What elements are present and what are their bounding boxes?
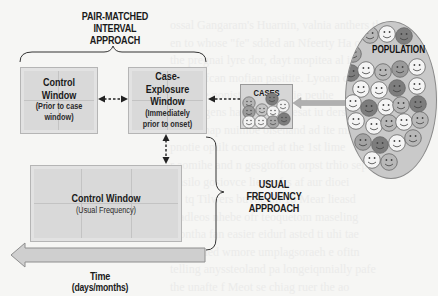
population-label: POPULATION (372, 44, 425, 55)
double-arrow-horizontal (97, 94, 129, 104)
control-window-usual-frequency: Control Window (Usual Frequency) (30, 165, 182, 242)
pair-matched-heading: PAIR-MATCHED INTERVAL APPROACH (68, 10, 163, 46)
case-window-sub1: (Immediately (134, 108, 200, 119)
control-window-prior-sub2: window) (26, 112, 91, 123)
usual-frequency-title-line1: USUAL FREQUENCY (234, 178, 313, 202)
usual-frequency-heading: USUAL FREQUENCY APPROACH (234, 178, 313, 214)
case-window-title3: Window (134, 95, 200, 108)
cases-faces (241, 85, 292, 128)
double-arrow-vertical (161, 133, 171, 165)
pair-matched-title-line2: INTERVAL APPROACH (68, 22, 163, 46)
control-window-prior: Control Window (Prior to case window) (20, 67, 98, 134)
dashed-arrow-cases-to-window (207, 94, 241, 104)
case-window-title2: Explosure (134, 83, 200, 96)
case-window-title1: Case- (134, 70, 200, 83)
control-window-prior-sub1: (Prior to case (26, 101, 91, 112)
case-exposure-window: Case- Explosure Window (Immediately prio… (128, 67, 207, 134)
population-to-cases-arrow (292, 97, 348, 109)
control-window-prior-title1: Control (26, 76, 91, 89)
time-axis-label: Time (days/months) (61, 270, 138, 294)
pair-matched-title-line1: PAIR-MATCHED (68, 10, 163, 22)
case-window-sub2: prior to onset) (134, 119, 200, 130)
cases-box: CASES (240, 84, 293, 129)
control-window-usual-sub: (Usual Frequency) (42, 205, 171, 216)
time-label-line2: (days/months) (61, 282, 138, 294)
control-window-usual-title: Control Window (42, 192, 171, 205)
time-arrow (10, 242, 206, 268)
pair-matched-brace (18, 46, 208, 64)
usual-frequency-brace (204, 135, 226, 253)
time-label-line1: Time (61, 270, 138, 282)
control-window-prior-title2: Window (26, 89, 91, 102)
usual-frequency-title-line2: APPROACH (234, 202, 313, 214)
